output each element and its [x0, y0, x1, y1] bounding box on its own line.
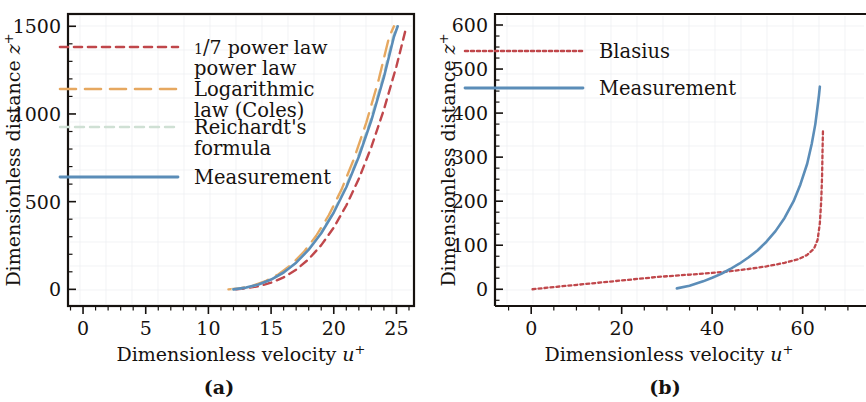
series-curve-0	[533, 129, 823, 290]
y-axis-title-a: Dimensionless distance z+	[1, 33, 24, 286]
y-axis-title-a-main: Dimensionless distance	[2, 54, 24, 286]
x-tick-label: 25	[384, 317, 408, 339]
legend-label-0: Blasius	[599, 40, 670, 63]
x-axis-title-b: Dimensionless velocity u+	[545, 342, 794, 365]
x-tick-label: 0	[525, 317, 537, 339]
panel-caption-b: (b)	[649, 376, 680, 398]
x-axis-title-a-main: Dimensionless velocity	[117, 343, 343, 365]
legend-label-2-line2: formula	[194, 137, 272, 160]
x-tick-label: 10	[196, 317, 220, 339]
y-tick-label: 1500	[13, 15, 61, 37]
legend-label-2: Reichardt's	[194, 116, 307, 139]
x-tick-label: 20	[610, 317, 634, 339]
panel-b: 02040600100200300400500600 BlasiusMeasur…	[433, 0, 866, 402]
x-axis-title-a-sym: u	[342, 343, 354, 365]
x-axis-title-a-sup: +	[355, 342, 366, 357]
legend-b: BlasiusMeasurement	[465, 40, 736, 100]
panel-caption-a: (a)	[204, 376, 234, 398]
x-tick-label: 15	[259, 317, 283, 339]
y-tick-label: 0	[49, 278, 61, 300]
y-tick-label: 0	[476, 278, 488, 300]
legend-label-1: Measurement	[599, 77, 736, 100]
y-tick-label: 600	[452, 14, 488, 36]
plot-frame-b	[495, 14, 866, 306]
legend-label-0-line2: power law	[194, 57, 297, 80]
panel-b-svg: 02040600100200300400500600 BlasiusMeasur…	[433, 0, 866, 402]
figure-container: 0510152025050010001500 1/7 power law pow…	[0, 0, 866, 402]
y-axis-title-b: Dimensionless distance z+	[436, 33, 459, 286]
x-tick-label: 60	[791, 317, 815, 339]
axis-ticks-b	[495, 14, 866, 314]
x-tick-label: 5	[140, 317, 152, 339]
x-axis-title-b-sup: +	[783, 342, 794, 357]
legend-label-0: 1/7 power law	[194, 36, 328, 59]
y-tick-label: 500	[25, 191, 61, 213]
curves-b	[533, 87, 823, 290]
x-axis-title-a: Dimensionless velocity u+	[117, 342, 366, 365]
x-axis-title-b-main: Dimensionless velocity	[545, 343, 771, 365]
legend-label-1: Logarithmic	[194, 78, 314, 101]
legend-a: 1/7 power law power lawLogarithmiclaw (C…	[60, 36, 331, 189]
panel-a: 0510152025050010001500 1/7 power law pow…	[0, 0, 433, 402]
x-tick-label: 20	[322, 317, 346, 339]
x-tick-label: 0	[77, 317, 89, 339]
legend-label-3: Measurement	[194, 166, 331, 189]
panel-a-svg: 0510152025050010001500 1/7 power law pow…	[0, 0, 433, 402]
series-curve-1	[677, 87, 820, 289]
y-axis-title-b-main: Dimensionless distance	[437, 54, 459, 286]
y-axis-title-a-sup: +	[1, 33, 16, 44]
x-axis-title-b-sym: u	[770, 343, 782, 365]
y-axis-title-b-sup: +	[436, 33, 451, 44]
x-tick-label: 40	[700, 317, 724, 339]
